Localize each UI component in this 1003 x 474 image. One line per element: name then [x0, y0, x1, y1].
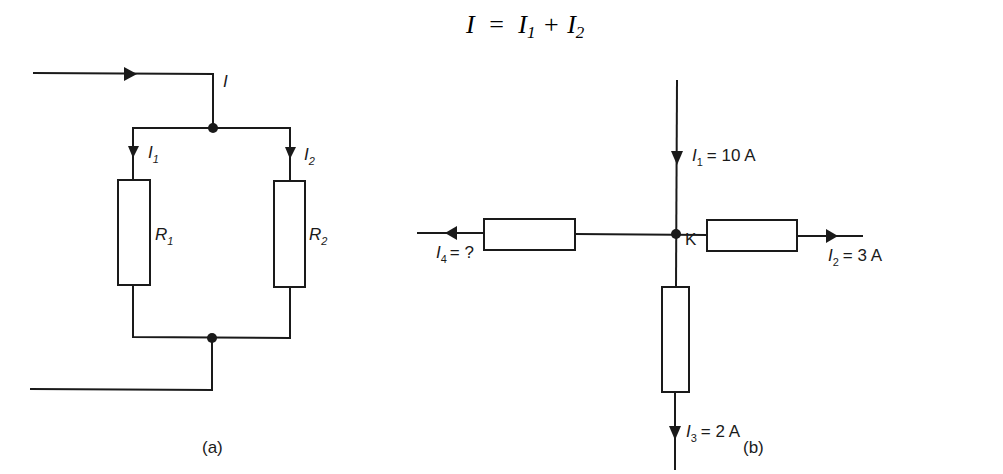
- resistor-left: [484, 219, 575, 250]
- figure-b-markers: [445, 151, 838, 440]
- top-vertical-wire: [676, 80, 677, 287]
- output-wire: [30, 338, 212, 390]
- resistor-r2: [274, 181, 305, 287]
- junction-dot-top: [208, 123, 218, 133]
- junction-dot-bottom: [207, 333, 217, 343]
- arrow-down-icon: [671, 151, 683, 165]
- label-node-k: K: [685, 230, 697, 249]
- input-wire: [33, 73, 213, 128]
- label-current-i1: I1: [148, 143, 159, 165]
- label-resistor-r2: R2: [309, 225, 327, 247]
- label-current-i2: I2= 3 A: [828, 246, 883, 268]
- label-current-i3: I3= 2 A: [686, 422, 741, 444]
- resistor-right: [707, 220, 797, 251]
- circuit-diagrams: I = I1 + I2 I I1 I2 R1 R2 (a): [0, 0, 1003, 474]
- label-current-i4: I4= ?: [436, 243, 474, 265]
- resistor-bottom: [662, 287, 689, 392]
- arrow-down-icon: [128, 146, 139, 158]
- label-resistor-r1: R1: [155, 225, 173, 247]
- arrow-down-icon: [669, 426, 681, 440]
- junction-dot-k: [671, 229, 681, 239]
- label-current-i1: I1= 10 A: [692, 146, 756, 168]
- arrow-right-icon: [124, 67, 137, 81]
- figure-b-node-circuit: [417, 80, 863, 470]
- arrow-down-icon: [285, 147, 296, 159]
- equation: I = I1 + I2: [465, 10, 585, 44]
- bottom-bus-wire: [133, 285, 290, 338]
- label-current-i: I: [223, 72, 228, 91]
- label-current-i2: I2: [304, 145, 315, 167]
- caption-b: (b): [743, 438, 764, 457]
- figure-a-parallel-circuit: [30, 73, 305, 390]
- caption-a: (a): [202, 438, 223, 457]
- arrow-right-icon: [826, 229, 838, 243]
- arrow-left-icon: [445, 226, 457, 240]
- resistor-r1: [118, 180, 150, 285]
